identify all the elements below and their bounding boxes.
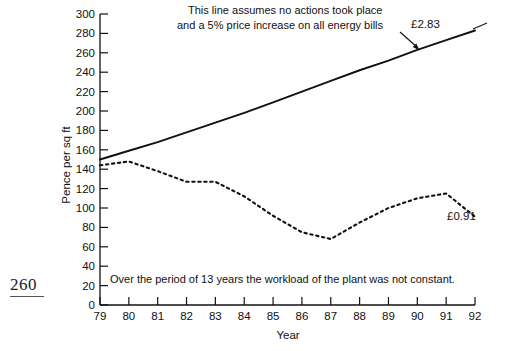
y-tick-label: 240 (76, 66, 95, 78)
y-tick-label: 180 (76, 124, 95, 136)
projection-note: This line assumes no actions took place … (177, 4, 420, 51)
x-axis-ticks (100, 297, 475, 305)
y-tick-label: 160 (76, 144, 95, 156)
x-tick-label: 92 (469, 310, 482, 322)
line-chart-svg: 300 280 260 240 220 200 180 160 140 120 … (0, 0, 506, 351)
series-dotted-actual (100, 161, 475, 239)
x-tick-label: 84 (238, 310, 251, 322)
y-tick-label: 200 (76, 105, 95, 117)
x-tick-label: 87 (324, 310, 337, 322)
dotted-line-end-label: £0.91 (447, 210, 476, 222)
solid-line-end-label-group: £2.83 (411, 18, 487, 30)
x-tick-label: 91 (440, 310, 453, 322)
chart-figure: 300 280 260 240 220 200 180 160 140 120 … (0, 0, 506, 351)
x-tick-label: 80 (122, 310, 135, 322)
x-tick-label: 83 (209, 310, 222, 322)
y-tick-label: 20 (82, 280, 95, 292)
projection-note-line1: This line assumes no actions took place (188, 4, 382, 16)
y-tick-label: 300 (76, 8, 95, 20)
y-tick-label: 220 (76, 86, 95, 98)
page-folio-number: 260 (10, 275, 37, 294)
x-tick-label: 85 (267, 310, 280, 322)
leader-line-solid (473, 23, 487, 29)
x-tick-labels: 79 80 81 82 83 84 85 86 87 88 89 90 91 9… (94, 310, 482, 322)
x-tick-label: 81 (151, 310, 164, 322)
y-axis-title: Pence per sq ft (60, 126, 72, 204)
y-tick-label: 120 (76, 183, 95, 195)
x-tick-label: 86 (296, 310, 309, 322)
x-tick-label: 82 (180, 310, 193, 322)
x-tick-label: 90 (411, 310, 424, 322)
y-tick-labels: 300 280 260 240 220 200 180 160 140 120 … (76, 8, 95, 311)
x-tick-label: 89 (382, 310, 395, 322)
x-tick-label: 79 (94, 310, 107, 322)
y-tick-label: 60 (82, 241, 95, 253)
projection-note-line2: and a 5% price increase on all energy bi… (177, 19, 384, 31)
y-tick-label: 80 (82, 221, 95, 233)
workload-note: Over the period of 13 years the workload… (110, 273, 455, 285)
page-folio: 260 (10, 275, 44, 297)
y-tick-label: 260 (76, 47, 95, 59)
x-tick-label: 88 (353, 310, 366, 322)
y-tick-label: 280 (76, 27, 95, 39)
page-folio-rule (10, 296, 44, 297)
y-tick-label: 140 (76, 163, 95, 175)
solid-line-end-label: £2.83 (411, 18, 440, 30)
y-tick-label: 40 (82, 260, 95, 272)
x-axis-title: Year (276, 329, 299, 341)
y-tick-label: 100 (76, 202, 95, 214)
